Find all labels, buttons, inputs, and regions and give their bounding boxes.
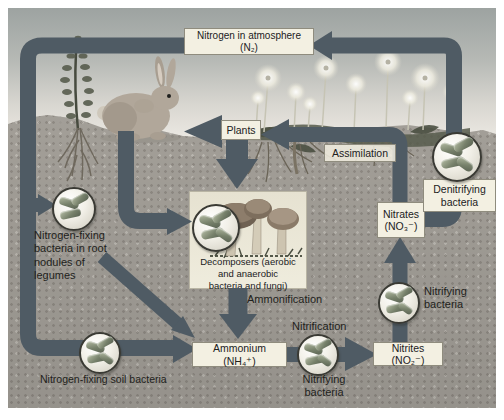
nitrifying-bacteria-lower-label: Nitrifying bacteria	[294, 373, 354, 400]
ammonium-label: Ammonium (NH₄⁺)	[192, 342, 287, 367]
arrow-plants-to-decomposers	[216, 140, 258, 189]
atmosphere-label: Nitrogen in atmosphere (N₂)	[184, 28, 314, 55]
nitrites-label: Nitrites (NO₂⁻)	[373, 342, 443, 366]
bacteria-rod	[96, 336, 115, 351]
bacteria-rod	[212, 208, 234, 225]
nitrification-label: Nitrification	[292, 320, 346, 333]
denitrifying-bacteria-label: Denitrifying bacteria	[423, 179, 496, 212]
nodule-bacteria-label: Nitrogen-fixing bacteria in root nodules…	[34, 229, 124, 283]
plants-label: Plants	[221, 120, 261, 140]
nitrifying-bacteria-lower-icon	[297, 334, 339, 376]
soil-bacteria-icon	[79, 332, 121, 374]
denitrifying-bacteria-icon	[432, 132, 482, 182]
ammonification-label: Ammonification	[247, 293, 322, 306]
arrow-plants-to-animals	[184, 115, 222, 148]
bacteria-rod	[398, 302, 415, 317]
bacteria-rod	[453, 136, 476, 154]
assimilation-label: Assimilation	[324, 144, 396, 162]
bacteria-rod	[60, 208, 82, 220]
nitrogen-cycle-figure: Decomposers (aerobic and anaerobic bacte…	[0, 0, 504, 420]
nitrifying-bacteria-upper-label: Nitrifying bacteria	[424, 285, 486, 312]
decomposer-bacteria-icon	[192, 204, 240, 252]
bacteria-rod	[214, 226, 233, 243]
arrow-animals-to-decomposers	[126, 131, 192, 235]
bacteria-rod	[314, 338, 333, 353]
nitrates-label: Nitrates (NO₃⁻)	[377, 202, 425, 238]
nodule-bacteria-icon	[52, 187, 96, 231]
soil-bacteria-label: Nitrogen-fixing soil bacteria	[40, 373, 190, 386]
bacteria-rod	[70, 191, 90, 206]
bacteria-rod	[99, 352, 116, 367]
bacteria-rod	[455, 155, 475, 173]
bacteria-rod	[317, 354, 334, 369]
nitrifying-bacteria-upper-icon	[378, 282, 420, 324]
bacteria-rod	[395, 286, 414, 301]
